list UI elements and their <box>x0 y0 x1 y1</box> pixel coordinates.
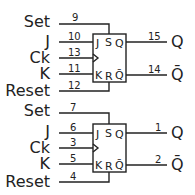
input-label-reset: Reset <box>5 172 50 191</box>
pin-number: 15 <box>148 31 161 42</box>
box-label-s: S <box>105 36 112 49</box>
pin-number: 12 <box>68 80 81 91</box>
box-label-j: J <box>95 37 99 50</box>
input-label-set: Set <box>24 101 50 120</box>
jk-flipflop-diagram: Set J Ck K Reset 9 10 13 11 12 J S Q K R… <box>0 0 195 195</box>
input-label-k: K <box>40 154 51 173</box>
box-label-qbar: Q̄ <box>115 69 124 82</box>
pin-number: 7 <box>70 102 76 113</box>
flipflop-bottom: Set J Ck K Reset 7 6 3 5 4 J S Q K R Q̄ … <box>5 101 183 191</box>
box-label-q: Q <box>115 37 124 50</box>
input-label-reset: Reset <box>5 81 50 100</box>
pin-number: 13 <box>68 47 81 58</box>
pin-number: 1 <box>155 122 161 133</box>
box-label-s: S <box>105 127 112 140</box>
output-label-q: Q <box>171 32 184 51</box>
box-label-k: K <box>95 69 103 82</box>
flipflop-top: Set J Ck K Reset 9 10 13 11 12 J S Q K R… <box>5 12 183 100</box>
wire-reset <box>59 82 109 91</box>
wire-set <box>59 24 109 34</box>
clock-triangle-icon <box>93 54 98 62</box>
box-label-k: K <box>95 159 103 172</box>
pin-number: 2 <box>155 154 161 165</box>
pin-number: 4 <box>70 171 76 182</box>
output-label-q: Q <box>171 123 184 142</box>
wire-set <box>59 113 109 124</box>
pin-number: 3 <box>70 137 76 148</box>
box-label-r: R <box>105 70 113 83</box>
box-label-r: R <box>105 160 113 173</box>
pin-number: 14 <box>148 64 161 75</box>
pin-number: 10 <box>68 31 81 42</box>
input-label-set: Set <box>24 12 50 31</box>
pin-number: 5 <box>70 153 76 164</box>
pin-number: 9 <box>72 12 78 23</box>
pin-number: 11 <box>68 63 81 74</box>
output-label-qbar: Q̄ <box>171 65 184 84</box>
pin-number: 6 <box>70 122 76 133</box>
clock-triangle-icon <box>93 144 98 152</box>
wire-reset <box>59 172 109 182</box>
box-label-qbar: Q̄ <box>115 159 124 172</box>
output-label-qbar: Q̄ <box>171 155 184 174</box>
box-label-q: Q <box>115 128 124 141</box>
box-label-j: J <box>95 128 99 141</box>
